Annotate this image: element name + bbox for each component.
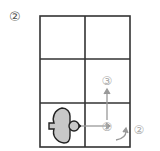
grid-diagram: ① ② ③ [0, 0, 160, 151]
step-3-marker: ③ [102, 74, 113, 88]
bird-icon [49, 108, 82, 143]
step-2-marker: ② [134, 123, 145, 137]
step-1-marker: ① [102, 120, 113, 134]
